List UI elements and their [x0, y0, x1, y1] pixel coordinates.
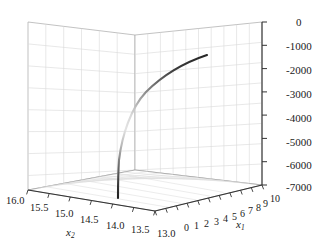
z-tick-label: -5000	[286, 136, 312, 148]
z-tick-label: 0	[296, 16, 302, 28]
x1-tick-label: 9	[263, 198, 268, 209]
x1-axis-title: x1	[236, 218, 245, 232]
x1-axis-title-sub: 1	[241, 223, 245, 232]
back-right-wall	[135, 22, 262, 185]
x1-tick-label: 2	[204, 218, 209, 229]
x1-tick-label: 8	[256, 202, 261, 213]
x2-tick-label: 14.0	[106, 220, 124, 231]
z-tick-label: -2000	[286, 64, 312, 76]
x2-tick-label: 14.5	[80, 214, 98, 225]
z-tick-label: -3000	[286, 88, 312, 100]
x2-tick-label: 15.0	[55, 208, 73, 219]
x1-tick-label: 1	[194, 220, 199, 231]
x1-tick-label: 4	[223, 213, 228, 224]
z-tick-label: -6000	[286, 159, 312, 171]
plot-figure: 0 -1000 -2000 -3000 -4000 -5000 -6000 -7…	[0, 0, 321, 250]
x1-tick-label: 7	[248, 205, 253, 216]
x1-tick-label: 10	[270, 193, 280, 204]
x1-tick-label: 3	[214, 216, 219, 227]
z-tick-label: -7000	[286, 181, 312, 193]
x2-tick-label: 13.5	[131, 224, 149, 235]
x2-tick-label: 16.0	[6, 195, 24, 206]
z-axis-line	[262, 22, 267, 185]
x2-axis-title: x2	[66, 226, 75, 240]
z-tick-label: -1000	[286, 40, 312, 52]
x2-tick-label: 13.0	[157, 228, 175, 239]
x1-tick-label: 0	[184, 222, 189, 233]
x2-axis-title-sub: 2	[71, 231, 75, 240]
z-tick-label: -4000	[286, 112, 312, 124]
x2-tick-label: 15.5	[30, 202, 48, 213]
